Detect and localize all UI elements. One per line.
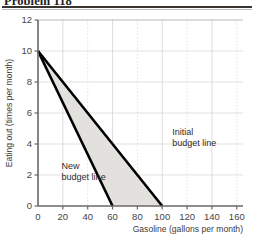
- y-axis-title: Eating out (times per month): [4, 59, 14, 168]
- x-axis-tick-label: 120: [179, 211, 195, 222]
- y-axis-tick-label: 8: [27, 76, 32, 87]
- x-axis-tick-label: 100: [154, 211, 170, 222]
- x-axis-tick-label: 140: [204, 211, 220, 222]
- y-axis-ticks: 024681012: [21, 14, 38, 211]
- initial-budget-line-label-line: budget line: [172, 138, 216, 148]
- y-axis-tick-label: 0: [27, 200, 32, 211]
- x-axis-tick-label: 0: [35, 211, 40, 222]
- x-axis-ticks: 020406080100120140160: [35, 206, 244, 222]
- x-axis-tick-label: 160: [229, 211, 245, 222]
- initial-budget-line-label-line: Initial: [172, 127, 193, 137]
- x-axis-tick-label: 40: [82, 211, 93, 222]
- new-budget-line-label-line: New: [62, 161, 81, 171]
- x-axis-tick-label: 20: [58, 211, 69, 222]
- new-budget-line-label-line: budget line: [62, 172, 106, 182]
- x-axis-title: Gasoline (gallons per month): [133, 224, 243, 234]
- x-axis-tick-label: 60: [107, 211, 118, 222]
- y-axis-tick-label: 6: [27, 107, 32, 118]
- y-axis-tick-label: 4: [27, 138, 32, 149]
- x-axis-tick-label: 80: [132, 211, 143, 222]
- y-axis-tick-label: 2: [27, 169, 32, 180]
- budget-line-chart: 024681012 020406080100120140160 Gasoline…: [0, 0, 254, 246]
- y-axis-tick-label: 12: [21, 14, 32, 25]
- figure-root: Problem 118 024681012 020406080100120140…: [0, 0, 254, 246]
- y-axis-tick-label: 10: [21, 45, 32, 56]
